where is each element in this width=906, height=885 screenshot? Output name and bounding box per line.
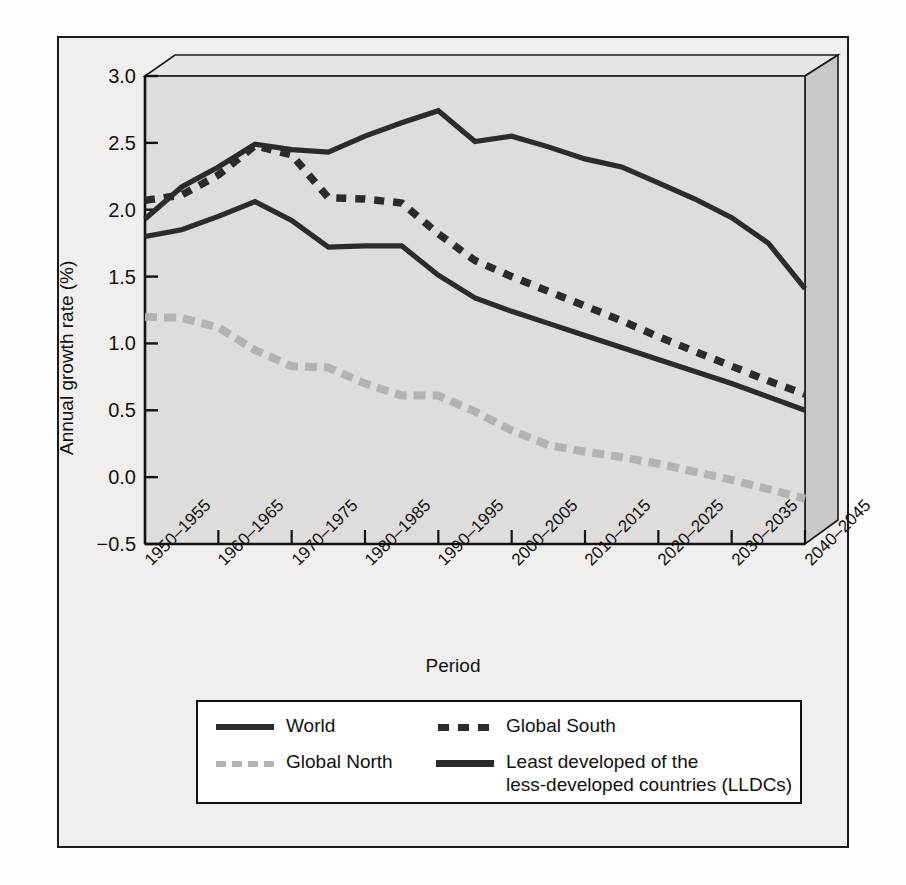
plot-box-top-face [145, 55, 838, 76]
y-tick-label: 2.5 [72, 131, 136, 154]
legend-label-global-south: Global South [506, 714, 616, 737]
plot-box-right-face [805, 55, 838, 544]
legend-swatch-global-north-icon [216, 752, 274, 774]
legend-item-lldc: Least developed of the less-developed co… [436, 750, 792, 796]
y-tick-label: 0.5 [72, 399, 136, 422]
legend-swatch-global-south-icon [436, 716, 494, 738]
x-axis-title: Period [0, 655, 906, 677]
legend-label-lldc-line2: less-developed countries (LLDCs) [506, 774, 792, 795]
legend-swatch-world-icon [216, 716, 274, 738]
legend-item-global-north: Global North [216, 750, 393, 774]
legend-label-lldc-line1: Least developed of the [506, 751, 698, 772]
legend-label-global-north: Global North [286, 750, 393, 773]
legend-label-world: World [286, 714, 335, 737]
legend-item-world: World [216, 714, 335, 738]
y-tick-label: 1.5 [72, 265, 136, 288]
y-tick-label: 0.0 [72, 466, 136, 489]
legend-label-lldc: Least developed of the less-developed co… [506, 750, 792, 796]
y-tick-label: 1.0 [72, 332, 136, 355]
y-tick-label: −0.5 [72, 533, 136, 556]
legend-swatch-lldc-icon [436, 752, 494, 774]
y-tick-label: 3.0 [72, 65, 136, 88]
figure-page: United Nations 3.02.52.01.51.00.50.0−0.5… [0, 0, 906, 885]
y-axis-title: Annual growth rate (%) [56, 261, 78, 455]
y-tick-label: 2.0 [72, 198, 136, 221]
legend-item-global-south: Global South [436, 714, 616, 738]
chart-legend: World Global South Global North Least de… [196, 700, 802, 804]
